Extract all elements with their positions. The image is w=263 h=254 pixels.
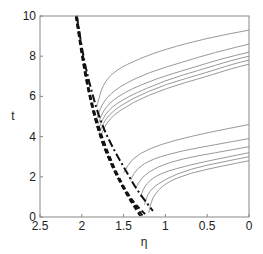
chart-svg: 2.521.510.50 0246810 η t — [0, 0, 263, 254]
series-lower-6 — [149, 161, 249, 213]
chart-container: 2.521.510.50 0246810 η t — [0, 0, 263, 254]
series-upper-1 — [97, 30, 249, 106]
series-dash-dot — [77, 16, 153, 211]
x-tick-label: 0 — [246, 219, 253, 233]
y-tick-label: 2 — [29, 170, 36, 184]
y-axis-label: t — [11, 109, 15, 123]
series-upper-4 — [99, 56, 250, 128]
series-upper-3 — [98, 52, 249, 124]
series-lower-3 — [135, 147, 249, 189]
series-upper-5 — [99, 60, 249, 132]
series-dashed-2 — [76, 16, 143, 216]
series-lower-4 — [140, 153, 249, 197]
x-tick-label: 2 — [78, 219, 85, 233]
y-tick-label: 10 — [23, 9, 37, 23]
plot-lines — [76, 16, 249, 216]
y-tick-label: 6 — [29, 89, 36, 103]
x-tick-label: 0.5 — [199, 219, 216, 233]
x-axis-label: η — [141, 235, 148, 249]
series-lower-2 — [130, 139, 249, 181]
y-tick-label: 0 — [29, 210, 36, 224]
y-tick-label: 8 — [29, 49, 36, 63]
series-upper-2 — [97, 44, 249, 118]
y-tick-label: 4 — [29, 130, 36, 144]
x-tick-label: 1.5 — [115, 219, 132, 233]
x-tick-label: 1 — [162, 219, 169, 233]
